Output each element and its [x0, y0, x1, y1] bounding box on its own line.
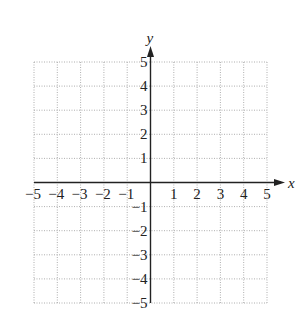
y-tick-label: 5 [140, 54, 148, 70]
y-axis-label: y [145, 30, 154, 46]
x-tick-label: −3 [72, 186, 88, 202]
y-axis-arrowhead-icon [147, 46, 154, 57]
y-tick-label: −5 [132, 295, 148, 311]
x-tick-label: −2 [95, 186, 111, 202]
y-tick-label: −1 [132, 199, 148, 215]
x-tick-labels: −5−4−3−2−112345 [25, 186, 271, 202]
x-tick-label: 2 [193, 186, 201, 202]
y-tick-label: 2 [140, 126, 148, 142]
x-tick-label: 1 [170, 186, 178, 202]
y-tick-label: −3 [132, 247, 148, 263]
x-axis-label: x [287, 175, 295, 191]
x-tick-label: 3 [217, 186, 225, 202]
y-tick-label: −2 [132, 223, 148, 239]
x-tick-label: 5 [263, 186, 271, 202]
coordinate-plane: −5−4−3−2−112345 −5−4−3−2−112345 x y [0, 0, 308, 326]
y-tick-label: 4 [140, 78, 148, 94]
y-tick-label: 1 [140, 150, 148, 166]
axes [34, 46, 285, 303]
x-tick-label: 4 [240, 186, 248, 202]
x-tick-label: −4 [48, 186, 64, 202]
x-tick-label: −5 [25, 186, 41, 202]
y-tick-label: −4 [132, 271, 148, 287]
x-axis-arrowhead-icon [274, 179, 285, 186]
y-tick-label: 3 [140, 102, 148, 118]
